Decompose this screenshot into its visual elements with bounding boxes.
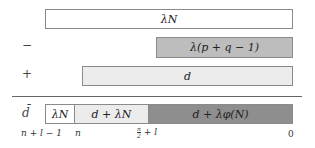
result-segment-d-plus-lambda-n: d + λN xyxy=(74,104,149,124)
d-bar-label: d̄ xyxy=(22,106,30,120)
row-d-box: d xyxy=(82,66,293,86)
row-lambda-n-box: λN xyxy=(45,9,293,29)
row-lambda-n-label: λN xyxy=(161,13,178,26)
row-d-label: d xyxy=(184,70,191,83)
fraction-n-over-2: n2 xyxy=(137,126,141,139)
divider-line xyxy=(12,96,302,97)
minus-sign: − xyxy=(22,38,32,52)
plus-sign: + xyxy=(22,67,32,81)
result-segment-lambda-n: λN xyxy=(45,104,75,124)
axis-label-n-half-plus-l: n2 + l xyxy=(137,126,157,139)
result-segment-d-plus-lambda-phi: d + λφ(N) xyxy=(148,104,293,124)
row-subtract-label: λ(p + q − 1) xyxy=(190,41,259,54)
result-segment-label: λN xyxy=(52,108,69,121)
row-subtract-box: λ(p + q − 1) xyxy=(156,37,293,58)
result-segment-label: d + λN xyxy=(92,108,132,121)
axis-label-zero: 0 xyxy=(288,129,294,139)
result-segment-label: d + λφ(N) xyxy=(192,108,248,121)
axis-label-n-plus-l-minus-1: n + l − 1 xyxy=(21,128,62,138)
axis-label-n: n xyxy=(75,128,81,138)
axis-label-plus-l: + l xyxy=(144,127,157,137)
